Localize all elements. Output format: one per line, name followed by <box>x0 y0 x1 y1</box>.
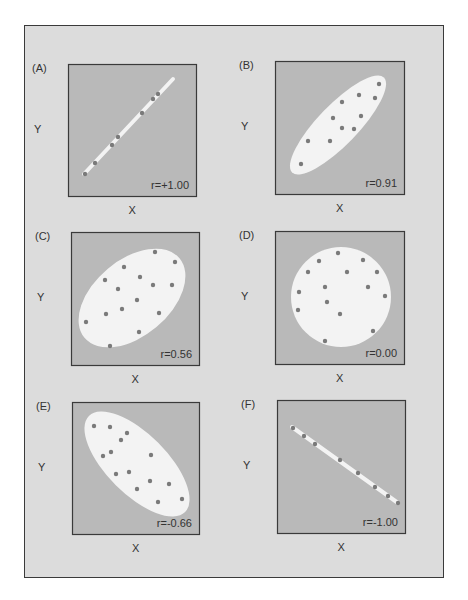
panel-b: (B) Y X r=0.91 <box>275 61 405 195</box>
panel-label: (F) <box>241 398 255 410</box>
y-axis-label: Y <box>34 123 41 135</box>
correlation-label: r=0.00 <box>366 347 398 359</box>
x-axis-label: X <box>338 541 345 553</box>
panel-label: (C) <box>35 230 50 242</box>
correlation-label: r=-1.00 <box>363 516 398 528</box>
x-axis-label: X <box>336 372 343 384</box>
x-axis-label: X <box>132 542 139 554</box>
y-axis-label: Y <box>241 120 248 132</box>
scatterplot-d <box>275 231 405 365</box>
panel-e: (E) Y X r=-0.66 <box>72 402 200 535</box>
scatterplot-c <box>71 232 200 366</box>
y-axis-label: Y <box>38 461 45 473</box>
panel-label: (E) <box>36 400 51 412</box>
y-axis-label: Y <box>243 459 250 471</box>
scatterplot-f <box>277 400 406 534</box>
x-axis-label: X <box>132 373 139 385</box>
panel-label: (A) <box>32 62 47 74</box>
y-axis-label: Y <box>241 290 248 302</box>
correlation-label: r=0.91 <box>366 177 398 189</box>
panel-label: (B) <box>239 59 254 71</box>
y-axis-label: Y <box>37 291 44 303</box>
panel-c: (C) Y X r=0.56 <box>71 232 200 366</box>
correlation-label: r=-0.66 <box>157 517 192 529</box>
x-axis-label: X <box>336 202 343 214</box>
panel-a: (A) Y X r=+1.00 <box>68 64 197 197</box>
scatterplot-a <box>68 64 197 197</box>
panel-d: (D) Y X r=0.00 <box>275 231 405 365</box>
scatterplot-e <box>72 402 200 535</box>
x-axis-label: X <box>129 204 136 216</box>
correlation-label: r=0.56 <box>161 348 193 360</box>
scatterplot-b <box>275 61 405 195</box>
panel-f: (F) Y X r=-1.00 <box>277 400 406 534</box>
correlation-label: r=+1.00 <box>151 179 189 191</box>
panel-label: (D) <box>239 229 254 241</box>
